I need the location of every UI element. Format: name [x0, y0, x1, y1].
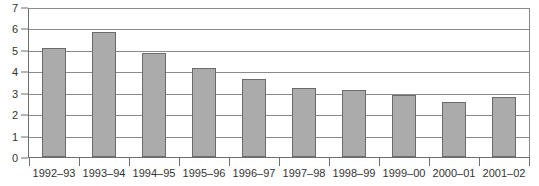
- x-axis-tick-label: 1993–94: [83, 168, 126, 179]
- bar[interactable]: [92, 32, 116, 157]
- y-axis-tick-mark: [21, 50, 28, 51]
- y-axis-tick-mark: [21, 72, 28, 73]
- bar-slot: [29, 9, 79, 157]
- x-axis-tick-mark: [379, 158, 380, 166]
- bar[interactable]: [292, 88, 316, 157]
- bar-slot: [129, 9, 179, 157]
- bar[interactable]: [42, 48, 66, 157]
- x-axis-tick-label: 1996–97: [233, 168, 276, 179]
- bar[interactable]: [392, 95, 416, 157]
- y-axis-tick-mark: [21, 93, 28, 94]
- y-axis-tick-mark: [21, 115, 28, 116]
- x-axis-tick-label: 1992–93: [33, 168, 76, 179]
- x-axis-tick-mark: [129, 158, 130, 166]
- bar-slot: [429, 9, 479, 157]
- y-axis-tick-label: 1: [12, 131, 18, 142]
- bar-slot: [379, 9, 429, 157]
- x-axis-tick-label: 1995–96: [183, 168, 226, 179]
- x-axis-tick-mark: [179, 158, 180, 166]
- y-axis-tick-mark: [21, 136, 28, 137]
- y-axis-tick-label: 5: [12, 45, 18, 56]
- x-axis-tick-label: 1999–00: [383, 168, 426, 179]
- x-axis: 1992–931993–941994–951995–961996–971997–…: [28, 158, 530, 186]
- bar[interactable]: [242, 79, 266, 157]
- x-axis-tick-mark: [479, 158, 480, 166]
- y-axis-tick-label: 3: [12, 88, 18, 99]
- bar-slot: [279, 9, 329, 157]
- x-axis-tick-label: 1997–98: [283, 168, 326, 179]
- y-axis-tick-label: 2: [12, 110, 18, 121]
- y-axis: 01234567: [0, 0, 28, 166]
- x-axis-tick-label: 1998–99: [333, 168, 376, 179]
- x-axis-tick-label: 1994–95: [133, 168, 176, 179]
- bar-slot: [79, 9, 129, 157]
- bar[interactable]: [492, 97, 516, 157]
- x-axis-tick-label: 2001–02: [483, 168, 526, 179]
- bar-slot: [479, 9, 529, 157]
- x-axis-tick-mark: [429, 158, 430, 166]
- y-axis-tick-label: 0: [12, 153, 18, 164]
- bar[interactable]: [142, 53, 166, 157]
- bar-chart: 01234567 1992–931993–941994–951995–96199…: [0, 0, 539, 186]
- bar-slot: [179, 9, 229, 157]
- x-axis-tick-mark: [79, 158, 80, 166]
- bars-layer: [29, 9, 529, 157]
- y-axis-tick-mark: [21, 29, 28, 30]
- y-axis-tick-label: 6: [12, 24, 18, 35]
- bar[interactable]: [342, 90, 366, 157]
- x-axis-tick-label: 2000–01: [433, 168, 476, 179]
- y-axis-tick-mark: [21, 158, 28, 159]
- x-axis-tick-mark: [529, 158, 530, 166]
- y-axis-tick-label: 4: [12, 67, 18, 78]
- y-axis-tick-label: 7: [12, 3, 18, 14]
- x-axis-tick-mark: [29, 158, 30, 166]
- x-axis-tick-mark: [229, 158, 230, 166]
- bar-slot: [229, 9, 279, 157]
- x-axis-tick-mark: [329, 158, 330, 166]
- bar[interactable]: [192, 68, 216, 157]
- x-axis-tick-mark: [279, 158, 280, 166]
- bar[interactable]: [442, 102, 466, 157]
- bar-slot: [329, 9, 379, 157]
- y-axis-tick-mark: [21, 8, 28, 9]
